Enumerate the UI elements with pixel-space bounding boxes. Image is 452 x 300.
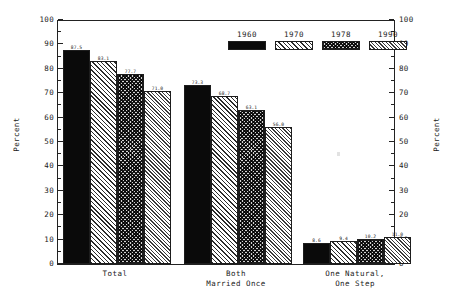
y-tick-label-left-0: 0 <box>49 259 54 268</box>
bar-value-label: 87.5 <box>71 45 82 50</box>
y-tick-label-left-40: 40 <box>44 161 54 170</box>
bar-value-label: 9.4 <box>339 236 348 241</box>
legend-swatch-solid-black-icon <box>228 41 266 50</box>
y-tick-label-left-20: 20 <box>44 210 54 219</box>
y-tick-label-left-10: 10 <box>44 235 54 244</box>
legend-label: 1970 <box>275 30 313 39</box>
legend-swatch-dark-crosshatch-icon <box>322 41 360 50</box>
y-tick-label-right-100: 100 <box>399 15 413 24</box>
bar-one-natural-one-step-1970[interactable]: 9.4 <box>330 241 357 264</box>
y-tick-label-right-70: 70 <box>399 88 409 97</box>
legend-item-1978[interactable]: 1978 <box>322 30 360 50</box>
legend-label: 1978 <box>322 30 360 39</box>
x-axis-category-label-both-married-once: Both Married Once <box>178 269 294 289</box>
bar-value-label: 10.2 <box>365 234 376 239</box>
bar-total-1960[interactable]: 87.5 <box>63 50 90 264</box>
y-tick-label-left-60: 60 <box>44 113 54 122</box>
y-tick-label-left-80: 80 <box>44 64 54 73</box>
bar-both-married-once-1990[interactable]: 56.0 <box>265 127 292 264</box>
bar-value-label: 77.7 <box>125 69 136 74</box>
y-tick-label-right-40: 40 <box>399 161 409 170</box>
bar-one-natural-one-step-1978[interactable]: 10.2 <box>357 239 384 264</box>
y-tick-label-left-30: 30 <box>44 186 54 195</box>
bar-both-married-once-1970[interactable]: 68.7 <box>211 96 238 264</box>
y-tick-label-right-60: 60 <box>399 113 409 122</box>
legend-swatch-fine-hatch-icon <box>369 41 407 50</box>
y-axis-title-left: Percent <box>12 105 21 165</box>
bar-total-1990[interactable]: 71.0 <box>144 91 171 265</box>
y-tick-label-right-20: 20 <box>399 210 409 219</box>
bar-value-label: 8.6 <box>312 238 321 243</box>
bar-value-label: 71.0 <box>152 86 163 91</box>
y-tick-label-left-70: 70 <box>44 88 54 97</box>
bar-value-label: 68.7 <box>219 91 230 96</box>
legend-item-1960[interactable]: 1960 <box>228 30 266 50</box>
legend-label: 1990 <box>369 30 407 39</box>
bar-chart: Percent Percent <box>0 0 452 300</box>
bar-value-label: 73.3 <box>192 80 203 85</box>
bar-both-married-once-1978[interactable]: 63.1 <box>238 110 265 264</box>
legend-item-1990[interactable]: 1990 <box>369 30 407 50</box>
x-axis-category-label-one-natural-one-step: One Natural, One Step <box>297 269 413 289</box>
bar-both-married-once-1960[interactable]: 73.3 <box>184 85 211 264</box>
y-axis-title-right: Percent <box>432 105 441 165</box>
y-tick-label-right-50: 50 <box>399 137 409 146</box>
legend: 1960 1970 1978 1990 <box>228 30 406 58</box>
scan-artifact <box>337 152 340 156</box>
x-axis-category-label-total: Total <box>57 269 173 279</box>
bar-one-natural-one-step-1990[interactable]: 11.0 <box>384 237 411 264</box>
bar-total-1978[interactable]: 77.7 <box>117 74 144 264</box>
bar-value-label: 56.0 <box>273 122 284 127</box>
legend-swatch-light-hatch-icon <box>275 41 313 50</box>
y-tick-label-left-90: 90 <box>44 39 54 48</box>
y-tick-label-left-50: 50 <box>44 137 54 146</box>
y-tick-label-right-30: 30 <box>399 186 409 195</box>
bar-value-label: 63.1 <box>246 105 257 110</box>
legend-item-1970[interactable]: 1970 <box>275 30 313 50</box>
y-tick-label-right-80: 80 <box>399 64 409 73</box>
bar-value-label: 11.0 <box>392 232 403 237</box>
bar-total-1970[interactable]: 83.1 <box>90 61 117 264</box>
legend-label: 1960 <box>228 30 266 39</box>
y-tick-label-left-100: 100 <box>40 15 54 24</box>
bar-one-natural-one-step-1960[interactable]: 8.6 <box>303 243 330 264</box>
bar-value-label: 83.1 <box>98 56 109 61</box>
